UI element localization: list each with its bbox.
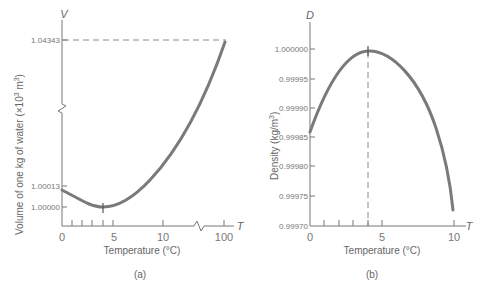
panel-b-x-ticks — [324, 220, 454, 226]
panel-b-density-curve — [310, 51, 453, 210]
panel-b-y-variable: D — [306, 9, 314, 21]
panel-a-chart: 1.04343 1.00013 1.00000 0 5 10 100 V T V… — [13, 8, 245, 280]
panel-b-x-tick-label-10: 10 — [448, 231, 460, 243]
panel-b-chart: 1.000000 0.99995 0.99990 0.99985 0.99980… — [268, 9, 474, 280]
panel-a-volume-curve — [62, 42, 225, 207]
panel-a-x-tick-label-5: 5 — [111, 231, 117, 243]
panel-b-y-tick-label: 0.99970 — [279, 222, 308, 231]
panel-a-y-axis-title: Volume of one kg of water (×103 m3) — [13, 74, 25, 235]
panel-a-x-tick-label-0: 0 — [59, 231, 65, 243]
panel-a-caption: (a) — [134, 269, 146, 280]
panel-b-y-tick-label: 0.99990 — [279, 104, 308, 113]
panel-b-x-tick-label-0: 0 — [307, 231, 313, 243]
panel-a-y-axis-break-icon — [58, 104, 66, 113]
panel-a-x-tick-label-100: 100 — [215, 231, 233, 243]
panel-a-y-tick-label-low: 1.00000 — [31, 203, 60, 212]
panel-b-y-tick-label: 0.99995 — [279, 75, 308, 84]
panel-b-y-tick-label: 0.99975 — [279, 192, 308, 201]
panel-b-y-tick-label: 0.99985 — [279, 133, 308, 142]
panel-a-x-ticks — [72, 220, 224, 226]
panel-a-y-tick-label-mid: 1.00013 — [31, 182, 60, 191]
panel-b-x-variable: T — [466, 220, 474, 232]
panel-a-x-axis-title: Temperature (°C) — [104, 245, 181, 256]
panel-a-y-tick-label-top: 1.04343 — [31, 36, 60, 45]
panel-b-y-tick-label: 0.99980 — [279, 162, 308, 171]
panel-b-caption: (b) — [366, 269, 378, 280]
panel-b-y-tick-label: 1.000000 — [275, 45, 309, 54]
panel-b-y-axis-title: Density (kg/m3) — [268, 112, 280, 180]
panel-b-x-axis-title: Temperature (°C) — [344, 245, 421, 256]
panel-b-x-tick-label-5: 5 — [379, 231, 385, 243]
figure: 1.04343 1.00013 1.00000 0 5 10 100 V T V… — [0, 0, 479, 293]
panel-a-x-variable: T — [237, 220, 245, 232]
panel-a-x-axis-break-icon — [194, 221, 204, 231]
panel-a-y-variable: V — [60, 8, 69, 20]
panel-a-x-tick-label-10: 10 — [157, 231, 169, 243]
